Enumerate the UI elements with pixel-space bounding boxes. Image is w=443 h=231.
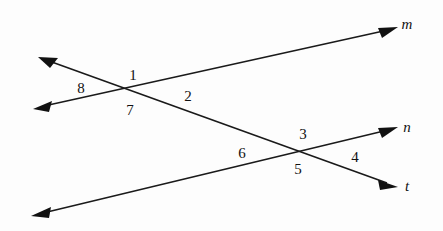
angle-label-7: 7: [126, 102, 134, 118]
angle-label-3: 3: [299, 126, 307, 142]
geometry-diagram: m t n 1 2 3 4 5 6 7 8: [0, 0, 443, 231]
angle-label-1: 1: [129, 67, 137, 83]
angle-label-8: 8: [77, 80, 85, 96]
angle-label-5: 5: [294, 161, 302, 177]
angle-label-2: 2: [184, 88, 192, 104]
angle-label-6: 6: [238, 145, 246, 161]
angle-label-4: 4: [351, 149, 359, 165]
diagram-background: [0, 0, 443, 231]
line-n-label: n: [403, 119, 411, 135]
geometry-canvas: m t n 1 2 3 4 5 6 7 8: [0, 0, 443, 231]
line-m-label: m: [402, 16, 413, 32]
